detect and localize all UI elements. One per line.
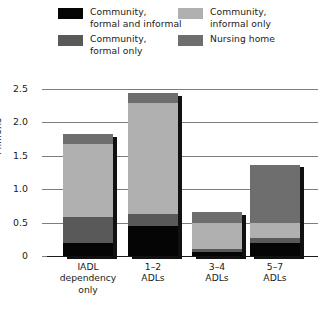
x-axis-tick-label: 5–7 ADLs <box>232 261 318 284</box>
bar-segment[interactable] <box>63 134 113 144</box>
gridline <box>47 89 318 90</box>
bar-segment[interactable] <box>250 165 300 223</box>
bar-1[interactable] <box>63 134 113 256</box>
y-axis-tick <box>42 223 47 224</box>
bar-3[interactable] <box>192 212 242 256</box>
y-axis-tick-label: 1.0 <box>0 184 28 193</box>
bar-segment[interactable] <box>192 212 242 223</box>
bar-segment[interactable] <box>63 144 113 217</box>
bar-segment[interactable] <box>63 243 113 256</box>
y-axis-tick-label: 1.5 <box>0 151 28 160</box>
y-axis-tick-label: 2.5 <box>0 84 28 93</box>
bar-segment[interactable] <box>192 252 242 256</box>
bar-2[interactable] <box>128 93 178 256</box>
bar-segment[interactable] <box>128 103 178 214</box>
y-axis-tick <box>42 189 47 190</box>
y-axis-tick <box>42 89 47 90</box>
bar-segment[interactable] <box>63 217 113 243</box>
bar-segment[interactable] <box>128 214 178 226</box>
y-axis-tick <box>42 256 47 257</box>
y-axis-tick <box>42 122 47 123</box>
bar-segment[interactable] <box>250 243 300 256</box>
plot-area: 00.51.01.52.02.5 <box>47 89 318 256</box>
bar-4[interactable] <box>250 165 300 257</box>
bar-segment[interactable] <box>128 226 178 256</box>
y-axis-tick <box>42 156 47 157</box>
bar-segment[interactable] <box>192 223 242 249</box>
bar-segment[interactable] <box>250 223 300 238</box>
gridline <box>47 122 318 123</box>
y-axis-tick-label: 2.0 <box>0 117 28 126</box>
stacked-bar-chart: Millions 00.51.01.52.02.5 IADL dependenc… <box>0 0 330 312</box>
y-axis-tick-label: 0.5 <box>0 218 28 227</box>
y-axis-tick-label: 0 <box>0 251 28 260</box>
bar-segment[interactable] <box>128 93 178 103</box>
